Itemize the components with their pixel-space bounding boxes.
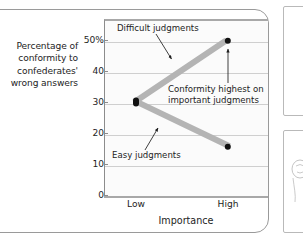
gridline-50 [105, 42, 268, 43]
ytick-mark-20 [104, 133, 108, 134]
ytick-label-30: 30 [72, 97, 104, 107]
gridline-10 [105, 166, 268, 167]
ytick-label-0: 0 [72, 190, 104, 200]
ytick-label-40: 40 [72, 66, 104, 76]
plot-bottom-rule [104, 196, 268, 199]
side-panel-bottom [283, 130, 303, 233]
gridline-40 [105, 73, 268, 74]
ytick-label-10: 10 [72, 159, 104, 169]
ytick-mark-10 [104, 164, 108, 165]
figure-screenshot: Percentage of conformity to confederates… [0, 0, 303, 237]
xtick-label-low: Low [106, 199, 166, 209]
xtick-label-high: High [198, 199, 258, 209]
annotation-easy-judgments: Easy judgments [112, 150, 181, 161]
y-axis-caption: Percentage of conformity to confederates… [2, 40, 78, 90]
gridline-20 [105, 135, 268, 136]
side-panel-top [283, 6, 303, 116]
ytick-mark-30 [104, 102, 108, 103]
ytick-label-50: 50% [72, 35, 104, 45]
annotation-difficult-judgments: Difficult judgments [117, 23, 199, 34]
annotation-conformity-highest: Conformity highest on important judgment… [168, 84, 264, 105]
ytick-label-20: 20 [72, 128, 104, 138]
datapoint-low-shared [133, 98, 139, 107]
ytick-mark-40 [104, 71, 108, 72]
plot-area [104, 19, 268, 197]
ytick-mark-0 [104, 195, 108, 196]
ytick-mark-50 [104, 40, 108, 41]
person-sketch-icon [288, 157, 303, 203]
x-axis-title: Importance [104, 215, 268, 226]
